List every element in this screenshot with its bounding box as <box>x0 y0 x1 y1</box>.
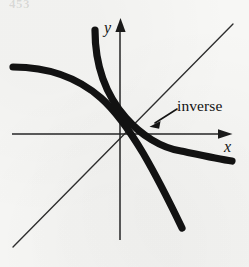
y-axis-label: y <box>104 20 111 36</box>
curve-inverse <box>95 30 232 161</box>
plot-canvas <box>0 0 249 267</box>
y-axis-arrowhead-icon <box>115 18 125 32</box>
identity-line-y-equals-x <box>13 24 233 247</box>
x-axis-label: x <box>224 139 231 155</box>
inverse-annotation-pointer-line <box>155 109 177 123</box>
curve-function <box>13 67 182 228</box>
inverse-function-figure: 453 y x inverse <box>0 0 249 267</box>
inverse-annotation-label: inverse <box>177 98 222 114</box>
